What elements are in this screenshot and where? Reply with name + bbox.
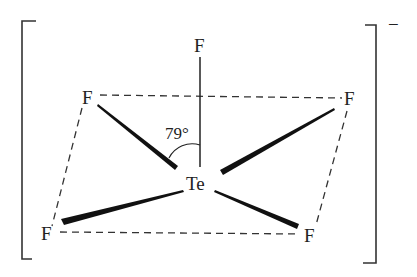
atom-te-central: Te: [186, 173, 205, 194]
atom-f-lower-right: F: [304, 225, 315, 246]
bond-lower-right: [214, 190, 299, 229]
angle-label: 79°: [165, 124, 189, 143]
atom-f-upper-right: F: [344, 88, 355, 109]
bond-lower-left: [61, 190, 184, 225]
wedge-bonds: [61, 104, 335, 229]
atom-f-top: F: [194, 35, 205, 56]
right-bracket: [363, 25, 376, 263]
atom-f-upper-left: F: [82, 87, 93, 108]
charge-label: −: [388, 14, 399, 35]
tef5-structure-diagram: − 79° F F F F F Te: [0, 0, 417, 277]
bond-upper-right: [220, 108, 335, 175]
atom-f-lower-left: F: [41, 223, 52, 244]
angle-arc: [169, 144, 200, 158]
left-bracket: [22, 21, 36, 259]
